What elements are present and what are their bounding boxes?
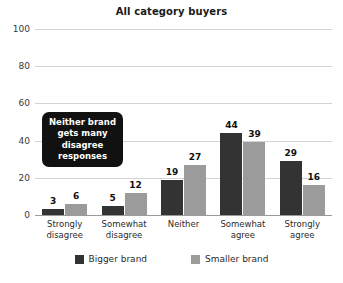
bar-value-label: 16: [303, 173, 325, 182]
bar-group: 1927: [161, 29, 206, 215]
bar-value-label: 5: [102, 194, 124, 203]
chart-legend: Bigger brandSmaller brand: [0, 255, 343, 264]
legend-item[interactable]: Bigger brand: [75, 255, 148, 264]
x-category-label-line: Somewhat: [94, 219, 153, 230]
x-category-label: Neither: [154, 219, 213, 230]
bar: [42, 209, 64, 215]
bar: [303, 185, 325, 215]
bar: [125, 193, 147, 215]
x-category-label: Somewhatagree: [213, 219, 272, 241]
y-tick-label: 80: [0, 62, 30, 71]
annotation-text: Neither brand gets many disagree respons…: [42, 117, 123, 163]
x-category-label: Stronglydisagree: [35, 219, 94, 241]
bar-value-label: 39: [243, 130, 265, 139]
y-tick-label: 60: [0, 99, 30, 108]
legend-swatch-icon: [75, 255, 84, 264]
x-category-label: Somewhatdisagree: [94, 219, 153, 241]
x-category-label: Stronglyagree: [273, 219, 332, 241]
bar-value-label: 3: [42, 197, 64, 206]
x-category-label-line: disagree: [94, 230, 153, 241]
y-tick-label: 20: [0, 173, 30, 182]
bar: [161, 180, 183, 215]
bar: [220, 133, 242, 215]
bar-value-label: 44: [220, 121, 242, 130]
legend-label: Smaller brand: [205, 255, 268, 264]
axis-baseline: [35, 215, 332, 216]
bar: [243, 142, 265, 215]
y-axis: 020406080100: [0, 29, 30, 215]
bar: [280, 161, 302, 215]
y-tick-label: 0: [0, 211, 30, 220]
bar: [184, 165, 206, 215]
x-category-label-line: disagree: [35, 230, 94, 241]
bar-value-label: 12: [125, 181, 147, 190]
bar-value-label: 27: [184, 153, 206, 162]
x-category-label-line: agree: [213, 230, 272, 241]
legend-swatch-icon: [191, 255, 200, 264]
bar-chart: All category buyers 020406080100 3651219…: [0, 0, 343, 283]
bar-value-label: 29: [280, 149, 302, 158]
legend-label: Bigger brand: [89, 255, 148, 264]
x-axis: StronglydisagreeSomewhatdisagreeNeitherS…: [35, 219, 332, 253]
legend-item[interactable]: Smaller brand: [191, 255, 268, 264]
y-tick-label: 100: [0, 25, 30, 34]
bar-value-label: 6: [65, 192, 87, 201]
annotation-callout: Neither brand gets many disagree respons…: [42, 112, 123, 167]
bar-value-label: 19: [161, 168, 183, 177]
bar: [102, 206, 124, 215]
x-category-label-line: Strongly: [35, 219, 94, 230]
bar-group: 4439: [220, 29, 265, 215]
x-category-label-line: agree: [273, 230, 332, 241]
bar-group: 2916: [280, 29, 325, 215]
x-category-label-line: Strongly: [273, 219, 332, 230]
chart-title: All category buyers: [0, 6, 343, 17]
bar: [65, 204, 87, 215]
x-category-label-line: Somewhat: [213, 219, 272, 230]
x-category-label-line: Neither: [154, 219, 213, 230]
y-tick-label: 40: [0, 136, 30, 145]
